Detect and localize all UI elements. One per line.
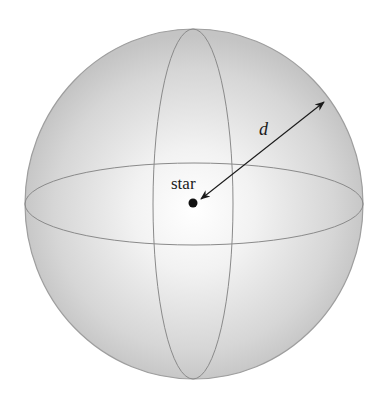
diagram-canvas: star d <box>0 0 380 396</box>
distance-label: d <box>259 119 269 139</box>
star-dot <box>189 199 198 208</box>
sphere-diagram: star d <box>0 0 380 396</box>
star-label: star <box>171 174 196 193</box>
